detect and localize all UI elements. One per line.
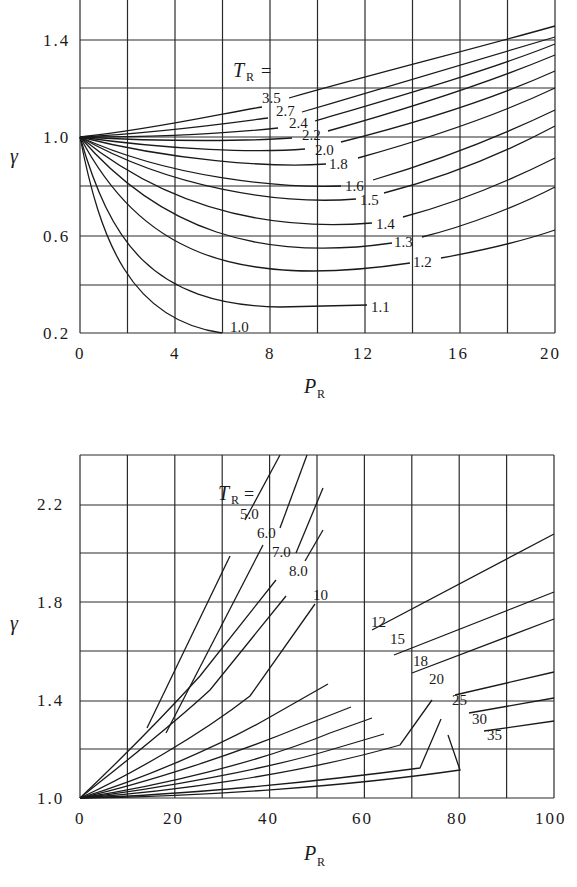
- top-legend-title: T R =: [233, 59, 271, 84]
- label-tr-5.0: 5.0: [240, 506, 259, 522]
- curve-tr-1.6-right: [373, 110, 555, 180]
- label-tr-1.4: 1.4: [376, 216, 395, 232]
- curve-tr-7.0-upper: [296, 488, 323, 553]
- bottom-x-axis-label: P R: [303, 842, 325, 869]
- xtick: 40: [258, 809, 279, 828]
- curve-tr-1.2-right: [441, 230, 555, 258]
- bottom-curve-labels: 5.0 6.0 7.0 8.0 10 12 15 18 20 25 30 35: [240, 506, 502, 743]
- curve-tr-2.2-right: [328, 55, 555, 131]
- top-x-ticks: 0 4 8 12 16 20: [75, 344, 561, 363]
- curve-tr-2.4-right: [315, 44, 555, 121]
- label-tr-1.3: 1.3: [394, 234, 413, 250]
- label-tr-15: 15: [390, 631, 405, 647]
- label-tr-1.5: 1.5: [360, 192, 379, 208]
- label-tr-30: 30: [472, 711, 487, 727]
- x-axis-label-sub: R: [317, 855, 325, 869]
- label-tr-1.1: 1.1: [371, 299, 390, 315]
- label-tr-8.0: 8.0: [289, 563, 308, 579]
- legend-t-sub: R: [246, 70, 254, 84]
- ytick: 1.8: [37, 593, 64, 612]
- ytick: 1.4: [37, 691, 64, 710]
- curve-tr-7.0-lower: [80, 580, 276, 798]
- curve-tr-1.4-right: [403, 158, 555, 217]
- curve-tr-1.3-right: [422, 187, 555, 237]
- label-tr-1.2: 1.2: [413, 254, 432, 270]
- label-tr-20: 20: [429, 671, 444, 687]
- top-x-axis-label: P R: [303, 375, 325, 401]
- xtick: 4: [170, 344, 181, 363]
- top-curve-labels: 3.5 2.7 2.4 2.2 2.0 1.8 1.6 1.5 1.4 1.3 …: [230, 90, 432, 335]
- curve-tr-1.5-right: [384, 126, 555, 193]
- label-tr-12: 12: [371, 614, 386, 630]
- curve-tr-20-upper: [412, 619, 554, 673]
- curve-tr-6.0-lower: [166, 545, 263, 733]
- legend-eq: =: [244, 484, 254, 504]
- bottom-grid: [80, 455, 554, 798]
- label-tr-6.0: 6.0: [257, 525, 276, 541]
- ytick: 0.2: [43, 324, 70, 343]
- label-tr-35: 35: [487, 727, 502, 743]
- curve-tr-6.0-upper: [280, 455, 307, 528]
- curve-tr-1.1: [80, 137, 367, 307]
- curve-tr-1.0: [80, 137, 222, 333]
- top-chart: 3.5 2.7 2.4 2.2 2.0 1.8 1.6 1.5 1.4 1.3 …: [10, 0, 561, 401]
- xtick: 100: [535, 809, 567, 828]
- label-tr-18: 18: [413, 653, 428, 669]
- bottom-y-ticks: 2.2 1.8 1.4 1.0: [37, 495, 64, 808]
- curve-tr-18-lower: [80, 718, 372, 798]
- bottom-legend-title: T R =: [218, 482, 254, 507]
- xtick: 60: [352, 809, 373, 828]
- xtick: 0: [75, 344, 86, 363]
- top-y-axis-label: γ: [10, 145, 19, 168]
- legend-eq: =: [261, 61, 271, 81]
- xtick: 16: [448, 344, 469, 363]
- xtick: 0: [75, 809, 86, 828]
- curve-tr-15-upper: [372, 534, 554, 630]
- label-tr-10: 10: [313, 587, 328, 603]
- xtick: 20: [540, 344, 561, 363]
- legend-t: T: [218, 482, 231, 504]
- label-tr-2.2: 2.2: [302, 127, 321, 143]
- ytick: 2.2: [37, 495, 64, 514]
- label-tr-1.0: 1.0: [230, 319, 249, 335]
- x-axis-label-p: P: [303, 842, 316, 864]
- bottom-y-axis-label: γ: [10, 612, 19, 635]
- curve-tr-8.0-upper: [305, 530, 323, 561]
- xtick: 8: [265, 344, 276, 363]
- xtick: 80: [447, 809, 468, 828]
- curve-tr-1.6: [80, 137, 341, 186]
- curve-tr-25-upper: [455, 672, 554, 695]
- top-y-ticks: 1.4 1.0 0.6 0.2: [43, 31, 70, 343]
- curve-tr-30-lower: [80, 719, 441, 798]
- figure: 3.5 2.7 2.4 2.2 2.0 1.8 1.6 1.5 1.4 1.3 …: [0, 0, 577, 887]
- bottom-chart: 5.0 6.0 7.0 8.0 10 12 15 18 20 25 30 35 …: [10, 455, 567, 869]
- x-axis-label-sub: R: [317, 387, 325, 401]
- ytick: 1.0: [43, 128, 70, 147]
- xtick: 20: [163, 809, 184, 828]
- legend-t: T: [233, 59, 246, 81]
- bottom-x-ticks: 0 20 40 60 80 100: [75, 809, 567, 828]
- ytick: 0.6: [43, 227, 70, 246]
- x-axis-label-p: P: [303, 375, 316, 397]
- legend-t-sub: R: [231, 493, 239, 507]
- xtick: 12: [353, 344, 374, 363]
- label-tr-1.8: 1.8: [329, 156, 348, 172]
- ytick: 1.0: [37, 789, 64, 808]
- label-tr-25: 25: [452, 692, 467, 708]
- ytick: 1.4: [43, 31, 70, 50]
- curve-tr-5.0-lower: [147, 556, 230, 728]
- label-tr-7.0: 7.0: [272, 544, 291, 560]
- top-grid: [80, 0, 555, 333]
